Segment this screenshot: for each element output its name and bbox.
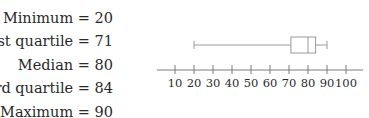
tick-label: 100 xyxy=(335,76,357,90)
box-and-whisker xyxy=(194,37,327,53)
tick-label: 70 xyxy=(282,76,297,90)
tick-label: 20 xyxy=(187,76,202,90)
tick-label: 30 xyxy=(206,76,221,90)
interquartile-box xyxy=(291,37,316,53)
box-plot: 102030405060708090100 xyxy=(0,0,369,118)
tick-label: 10 xyxy=(168,76,183,90)
x-axis: 102030405060708090100 xyxy=(157,65,363,90)
tick-label: 50 xyxy=(244,76,259,90)
tick-label: 80 xyxy=(301,76,316,90)
tick-label: 60 xyxy=(263,76,278,90)
tick-label: 40 xyxy=(225,76,240,90)
tick-label: 90 xyxy=(320,76,335,90)
